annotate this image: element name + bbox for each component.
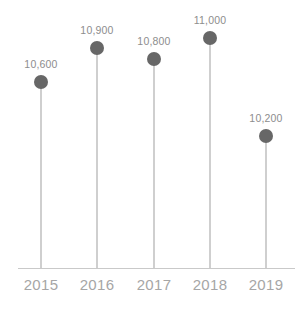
x-axis-tick-label-2018: 2018 (193, 276, 228, 293)
marker-dot-2018[interactable] (203, 31, 217, 45)
x-axis-tick-label-2019: 2019 (249, 276, 284, 293)
value-label-2017: 10,800 (137, 35, 170, 47)
x-axis-tick-label-2016: 2016 (80, 276, 115, 293)
stem-2018 (209, 38, 211, 268)
plot-area: 10,600 10,900 10,800 11,000 10,200 2015 (0, 0, 307, 310)
marker-dot-2019[interactable] (259, 129, 273, 143)
lollipop-chart: 10,600 10,900 10,800 11,000 10,200 2015 (0, 0, 307, 310)
value-label-2016: 10,900 (80, 24, 113, 36)
marker-dot-2016[interactable] (90, 41, 104, 55)
x-axis-tick-label-2015: 2015 (24, 276, 59, 293)
marker-dot-2017[interactable] (147, 52, 161, 66)
stem-2017 (153, 59, 155, 268)
value-label-2018: 11,000 (194, 14, 227, 26)
value-label-2015: 10,600 (24, 58, 57, 70)
stem-2019 (265, 136, 267, 268)
stem-2015 (40, 82, 42, 268)
x-axis-line (18, 268, 295, 269)
value-label-2019: 10,200 (249, 112, 282, 124)
stem-2016 (96, 48, 98, 268)
x-axis-tick-label-2017: 2017 (137, 276, 172, 293)
marker-dot-2015[interactable] (34, 75, 48, 89)
